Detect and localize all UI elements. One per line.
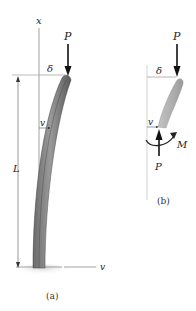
delta-label: δ <box>47 63 53 74</box>
caption-b: (b) <box>157 196 170 206</box>
length-arrow-top <box>16 76 20 82</box>
v-axis-label: v <box>100 262 105 272</box>
b-load-bottom-head <box>156 129 163 140</box>
column-buckling-diagram: x P δ v L v (a) P δ v M P (b) <box>0 0 196 311</box>
x-axis-label: x <box>36 15 42 26</box>
local-v-label: v <box>40 118 45 128</box>
b-load-bottom-label: P <box>154 161 162 172</box>
load-p-label: P <box>63 30 72 43</box>
load-p-arrow-head <box>65 66 72 76</box>
caption-a: (a) <box>46 291 58 301</box>
figure-a: x P δ v L v (a) <box>12 15 105 301</box>
length-label: L <box>12 163 20 174</box>
b-load-top-label: P <box>172 30 181 43</box>
free-body-column-segment <box>158 79 183 128</box>
b-load-top-head <box>174 66 181 77</box>
moment-arrow-head <box>170 132 177 139</box>
moment-label: M <box>176 139 188 150</box>
b-delta-label: δ <box>156 65 162 76</box>
b-local-v-label: v <box>148 117 153 127</box>
figure-b: P δ v M P (b) <box>146 30 188 206</box>
